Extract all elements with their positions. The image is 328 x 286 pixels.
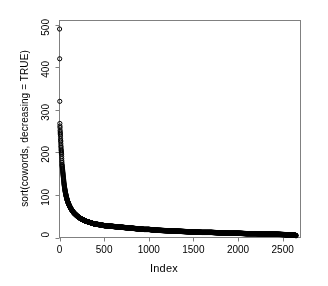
scatter-plot-canvas bbox=[0, 0, 328, 286]
plot-figure: Index sort(cowords, decreasing = TRUE) 0… bbox=[0, 0, 328, 286]
